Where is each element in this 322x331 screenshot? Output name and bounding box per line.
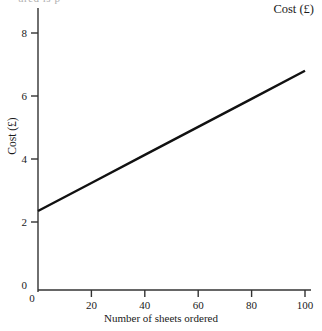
data-series-group bbox=[38, 71, 305, 211]
y-tick-group: 02468 bbox=[22, 27, 39, 291]
x-tick-label: 100 bbox=[297, 299, 314, 311]
plot-area: 02468 020406080100 bbox=[0, 0, 322, 331]
y-tick-label: 2 bbox=[22, 216, 28, 228]
x-tick-group: 020406080100 bbox=[29, 290, 314, 311]
cost-line-chart: ured is p Cost (£) Cost (£) Number of sh… bbox=[0, 0, 322, 331]
x-tick-label: 80 bbox=[246, 299, 258, 311]
x-tick-label: 20 bbox=[86, 299, 98, 311]
x-tick-label: 60 bbox=[193, 299, 205, 311]
y-tick-label: 4 bbox=[22, 153, 28, 165]
x-tick-label: 40 bbox=[139, 299, 151, 311]
y-tick-label: 8 bbox=[22, 27, 28, 39]
series-line-cost bbox=[38, 71, 305, 211]
x-tick-label: 0 bbox=[29, 292, 35, 304]
y-tick-label: 0 bbox=[22, 279, 28, 291]
y-tick-label: 6 bbox=[22, 90, 28, 102]
